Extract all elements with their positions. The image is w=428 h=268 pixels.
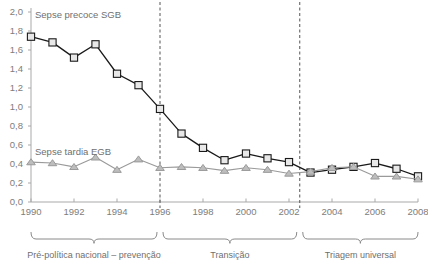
- data-point[interactable]: [156, 105, 163, 112]
- period-brackets: [31, 232, 418, 243]
- y-tick-label: 0,2: [10, 177, 23, 188]
- data-point[interactable]: [285, 159, 292, 166]
- data-point[interactable]: [178, 130, 185, 137]
- data-point[interactable]: [242, 164, 251, 170]
- x-tick-label: 2006: [364, 206, 385, 217]
- period-divider-lines: [160, 2, 300, 208]
- y-tick-label: 2,0: [10, 6, 23, 17]
- period-bracket: [31, 232, 157, 243]
- data-point[interactable]: [199, 144, 206, 151]
- y-tick-label: 1,6: [10, 44, 23, 55]
- x-tick-label: 2004: [321, 206, 342, 217]
- chart-container: 0,00,20,40,60,81,01,21,41,61,82,0 199019…: [0, 0, 428, 268]
- y-tick-label: 1,2: [10, 82, 23, 93]
- period-bracket-label: Triagem universal: [325, 250, 396, 260]
- y-tick-label: 1,4: [10, 63, 23, 74]
- series-label-early: Sepse precoce SGB: [35, 9, 121, 20]
- y-tick-label: 1,0: [10, 101, 23, 112]
- x-tick-label: 1998: [192, 206, 213, 217]
- data-point[interactable]: [221, 157, 228, 164]
- x-tick-label: 2000: [235, 206, 256, 217]
- x-axis-tickmarks: [31, 199, 418, 203]
- line-chart: 0,00,20,40,60,81,01,21,41,61,82,0 199019…: [0, 0, 428, 268]
- x-tick-label: 1990: [20, 206, 41, 217]
- series-early: [27, 33, 421, 180]
- data-point[interactable]: [135, 82, 142, 89]
- x-tick-label: 1992: [63, 206, 84, 217]
- y-tick-label: 0,4: [10, 158, 23, 169]
- x-tick-label: 2002: [278, 206, 299, 217]
- period-bracket-labels: Pré-política nacional – prevençãoTransiç…: [27, 250, 396, 260]
- data-point[interactable]: [264, 155, 271, 162]
- x-tick-label: 2008: [407, 206, 428, 217]
- data-point[interactable]: [49, 39, 56, 46]
- x-tick-label: 1994: [106, 206, 127, 217]
- period-bracket: [163, 232, 297, 243]
- data-point[interactable]: [113, 166, 122, 172]
- period-bracket: [303, 232, 418, 243]
- x-axis-tick-labels: 1990199219941996199820002002200420062008: [20, 206, 428, 217]
- data-series-layer: [27, 33, 423, 182]
- data-point[interactable]: [92, 41, 99, 48]
- series-label-late: Sepse tardia EGB: [35, 146, 111, 157]
- data-point[interactable]: [134, 156, 143, 162]
- y-tick-label: 0,8: [10, 120, 23, 131]
- data-point[interactable]: [242, 150, 249, 157]
- data-point[interactable]: [27, 33, 34, 40]
- period-bracket-label: Transição: [210, 250, 249, 260]
- data-point[interactable]: [113, 70, 120, 77]
- y-tick-label: 0,6: [10, 139, 23, 150]
- data-point[interactable]: [393, 165, 400, 172]
- y-axis-tick-labels: 0,00,20,40,60,81,01,21,41,61,82,0: [10, 6, 23, 207]
- data-point[interactable]: [70, 54, 77, 61]
- period-bracket-label: Pré-política nacional – prevenção: [27, 250, 161, 260]
- y-tick-label: 1,8: [10, 25, 23, 36]
- data-point[interactable]: [371, 159, 378, 166]
